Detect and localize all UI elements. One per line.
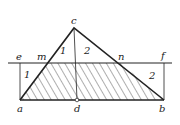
label-region-2-upper: 2 bbox=[84, 46, 90, 56]
triangle-diagram: c e m 1 2 n f 1 2 a d b bbox=[0, 0, 180, 125]
label-b: b bbox=[159, 104, 165, 114]
point-d-marker bbox=[75, 98, 79, 102]
label-a: a bbox=[17, 104, 23, 114]
label-region-1-lower: 1 bbox=[24, 70, 30, 80]
label-region-1-upper: 1 bbox=[60, 46, 66, 56]
label-f: f bbox=[161, 51, 165, 61]
label-region-2-lower: 2 bbox=[149, 71, 155, 81]
label-n: n bbox=[118, 52, 124, 62]
label-apex: c bbox=[71, 16, 77, 26]
label-m: m bbox=[37, 52, 46, 62]
hatched-trapezoid bbox=[20, 63, 164, 100]
label-e: e bbox=[16, 52, 22, 62]
label-d: d bbox=[74, 104, 80, 114]
diagram-lines bbox=[0, 0, 180, 125]
